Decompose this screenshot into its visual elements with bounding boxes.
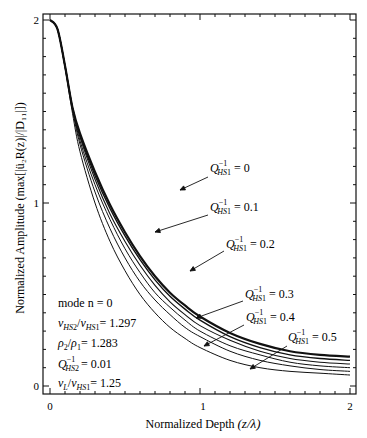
svg-text:Q−1HS1= 0.5: Q−1HS1= 0.5 bbox=[288, 328, 337, 346]
curves bbox=[50, 20, 350, 375]
arrowhead-icon bbox=[204, 342, 209, 346]
y-tick-0: 0 bbox=[34, 380, 40, 392]
curve-labels: Q−1HS1= 0 Q−1HS1= 0.1 Q−1HS1= 0.2 Q−1HS1… bbox=[210, 159, 337, 346]
label-q01: Q−1HS1= 0.1 bbox=[210, 198, 259, 216]
x-tick-2: 2 bbox=[347, 400, 353, 412]
label-q0: Q−1HS1= 0 bbox=[210, 159, 250, 177]
y-tick-1: 1 bbox=[34, 197, 40, 209]
arrow-3 bbox=[196, 301, 243, 318]
svg-text:Q−1HS1= 0.4: Q−1HS1= 0.4 bbox=[246, 308, 295, 326]
label-q05: Q−1HS1= 0.5 bbox=[288, 328, 337, 346]
x-tick-0: 0 bbox=[47, 400, 53, 412]
chart-svg: 0 1 2 0 1 2 Normalized Depth (z/λ) Norma… bbox=[0, 0, 367, 438]
param-q-hs2: Q−1HS2= 0.01 bbox=[58, 355, 112, 373]
x-tick-1: 1 bbox=[200, 400, 206, 412]
param-mode: mode n = 0 bbox=[58, 296, 112, 310]
curve-5 bbox=[50, 20, 350, 375]
arrowhead-icon bbox=[180, 186, 185, 190]
svg-text:Q−1HS1= 0.2: Q−1HS1= 0.2 bbox=[226, 235, 275, 253]
param-velocity-ratio: vHS2/vHS1= 1.297 bbox=[58, 316, 136, 332]
arrow-1 bbox=[155, 215, 208, 232]
x-axis-label: Normalized Depth (z/λ) bbox=[146, 416, 261, 431]
label-q02: Q−1HS1= 0.2 bbox=[226, 235, 275, 253]
arrowhead-icon bbox=[250, 364, 255, 369]
arrowhead-icon bbox=[155, 228, 160, 232]
label-q04: Q−1HS1= 0.4 bbox=[246, 308, 295, 326]
param-density-ratio: ρ2/ρ1= 1.283 bbox=[57, 336, 118, 352]
parameter-block: mode n = 0 vHS2/vHS1= 1.297 ρ2/ρ1= 1.283… bbox=[57, 296, 136, 392]
label-q03: Q−1HS1= 0.3 bbox=[245, 285, 294, 303]
svg-text:Q−1HS1= 0: Q−1HS1= 0 bbox=[210, 159, 250, 177]
param-vl-ratio: vL/vHS1= 1.25 bbox=[58, 376, 121, 392]
y-tick-2: 2 bbox=[34, 14, 40, 26]
svg-text:Q−1HS1= 0.3: Q−1HS1= 0.3 bbox=[245, 285, 294, 303]
svg-text:Q−1HS1= 0.1: Q−1HS1= 0.1 bbox=[210, 198, 259, 216]
y-axis-label: Normalized Amplitude (max[|ü₂R(z)|/|D₁₁|… bbox=[13, 102, 27, 313]
arrow-2 bbox=[190, 251, 224, 271]
arrowhead-icon bbox=[190, 267, 195, 271]
